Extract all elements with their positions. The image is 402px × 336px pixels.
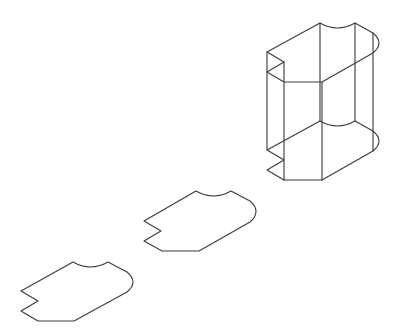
flat-profile-bottom	[21, 262, 133, 321]
profile-outline	[144, 191, 256, 251]
prism-vertical-edges	[267, 23, 373, 180]
flat-profile-middle	[144, 191, 256, 251]
isometric-diagram	[0, 0, 402, 336]
extruded-prism	[267, 23, 379, 180]
drawing-canvas	[0, 0, 402, 336]
profile-outline	[21, 262, 133, 321]
